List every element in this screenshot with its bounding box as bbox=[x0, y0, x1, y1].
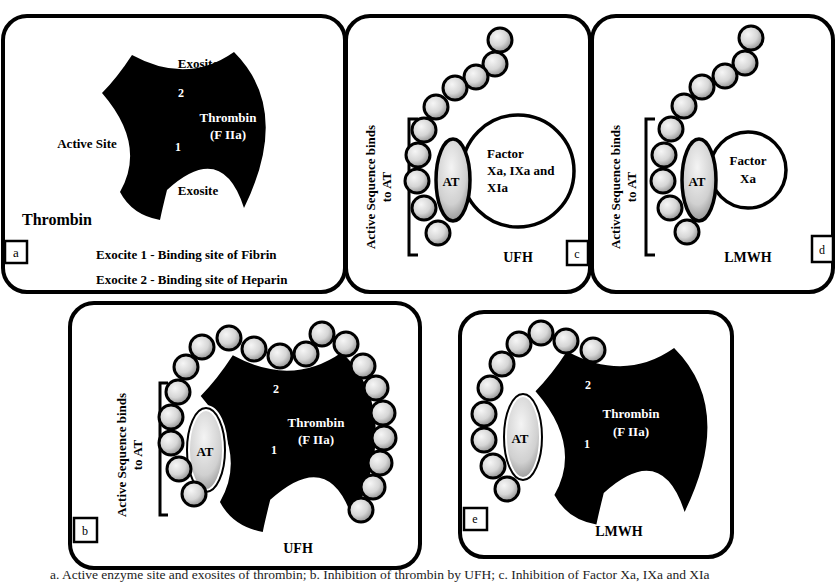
panel-tag-d: d bbox=[819, 243, 825, 257]
bracket-label-line1: Active Sequence binds bbox=[363, 125, 378, 249]
legend-exosite-2: Exocite 2 - Binding site of Heparin bbox=[96, 272, 288, 287]
bracket-label-line2: to AT bbox=[624, 171, 639, 202]
bracket-label-line1: Active Sequence binds bbox=[608, 125, 623, 249]
at-label: AT bbox=[511, 431, 528, 446]
bracket-label-line2: to AT bbox=[379, 171, 394, 202]
panel-d: Active Sequence binds to AT Factor Xa AT… bbox=[592, 16, 833, 292]
factor-circle bbox=[710, 132, 786, 208]
thrombin-label-line2: (F IIa) bbox=[613, 424, 649, 439]
exosite-bottom-label: Exosite bbox=[178, 183, 219, 198]
site-1-label: 1 bbox=[175, 140, 181, 154]
thrombin-label-line1: Thrombin bbox=[288, 415, 346, 430]
heparin-type-label: UFH bbox=[503, 250, 533, 265]
figure-caption: a. Active enzyme site and exosites of th… bbox=[0, 567, 836, 583]
site-2-label: 2 bbox=[585, 378, 591, 392]
at-label: AT bbox=[196, 444, 213, 459]
thrombin-label-line1: Thrombin bbox=[603, 406, 661, 421]
heparin-type-label: LMWH bbox=[595, 524, 643, 539]
bracket-label-line2: to AT bbox=[130, 439, 145, 470]
heparin-type-label: LMWH bbox=[724, 250, 772, 265]
bracket-label-line1: Active Sequence binds bbox=[114, 393, 129, 517]
at-label: AT bbox=[442, 174, 459, 189]
panel-e: AT 2 Thrombin (F IIa) 1 LMWH e bbox=[460, 312, 732, 557]
panel-c: Active Sequence binds to AT Factor Xa, I… bbox=[346, 16, 590, 292]
site-1-label: 1 bbox=[271, 443, 277, 457]
active-site-label: Active Site bbox=[57, 136, 117, 151]
thrombin-label-line1: Thrombin bbox=[200, 110, 258, 125]
panel-a-title: Thrombin bbox=[22, 211, 92, 228]
site-2-label: 2 bbox=[273, 382, 279, 396]
factor-label-line2: Xa, IXa and bbox=[487, 163, 555, 178]
at-label: AT bbox=[688, 174, 705, 189]
legend-exosite-1: Exocite 1 - Binding site of Fibrin bbox=[96, 247, 277, 262]
site-2-label: 2 bbox=[178, 86, 184, 100]
factor-label-line1: Factor bbox=[487, 146, 524, 161]
panel-a: Exosite 2 Thrombin (F IIa) 1 Active Site… bbox=[3, 16, 345, 292]
site-1-label: 1 bbox=[584, 437, 590, 451]
heparin-mechanism-figure: Exosite 2 Thrombin (F IIa) 1 Active Site… bbox=[0, 0, 836, 583]
panel-tag-b: b bbox=[82, 524, 88, 538]
thrombin-label-line2: (F IIa) bbox=[210, 127, 246, 142]
panel-b: Active Sequence binds to AT AT 2 Thrombi… bbox=[70, 303, 420, 568]
factor-label-line3: XIa bbox=[487, 180, 508, 195]
panel-tag-c: c bbox=[574, 247, 579, 261]
thrombin-label-line2: (F IIa) bbox=[298, 432, 334, 447]
panel-tag-e: e bbox=[472, 512, 477, 526]
heparin-type-label: UFH bbox=[283, 541, 313, 556]
factor-label-line1: Factor bbox=[730, 153, 767, 168]
exosite-top-label: Exosite bbox=[178, 56, 219, 71]
factor-label-line2: Xa bbox=[740, 171, 756, 186]
panel-tag-a: a bbox=[13, 245, 19, 260]
